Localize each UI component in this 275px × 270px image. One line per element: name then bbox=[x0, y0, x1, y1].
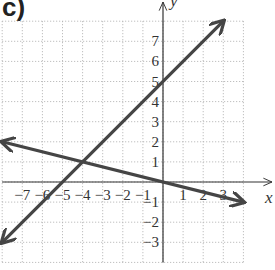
grid bbox=[2, 21, 243, 262]
x-tick-label: 1 bbox=[179, 187, 187, 203]
x-tick-label: −3 bbox=[95, 187, 111, 203]
y-tick-label: −2 bbox=[143, 214, 159, 230]
y-tick-label: 7 bbox=[152, 33, 160, 49]
y-tick-label: 1 bbox=[152, 154, 160, 170]
x-tick-label: −2 bbox=[115, 187, 131, 203]
line-1 bbox=[2, 21, 223, 242]
y-tick-label: 3 bbox=[152, 114, 160, 130]
x-tick-label: −7 bbox=[14, 187, 30, 203]
y-tick-label: 6 bbox=[152, 53, 160, 69]
y-tick-label: 2 bbox=[152, 134, 160, 150]
y-tick-label: 4 bbox=[152, 94, 160, 110]
coordinate-plane: −7−6−5−4−3−2−1123−3−2−11234567xy bbox=[0, 0, 275, 270]
y-tick-label: −1 bbox=[143, 194, 159, 210]
y-tick-label: −3 bbox=[143, 234, 159, 250]
y-axis-label: y bbox=[168, 0, 178, 10]
x-tick-label: 2 bbox=[199, 187, 207, 203]
x-axis-label: x bbox=[264, 188, 273, 207]
x-tick-label: −4 bbox=[75, 187, 91, 203]
